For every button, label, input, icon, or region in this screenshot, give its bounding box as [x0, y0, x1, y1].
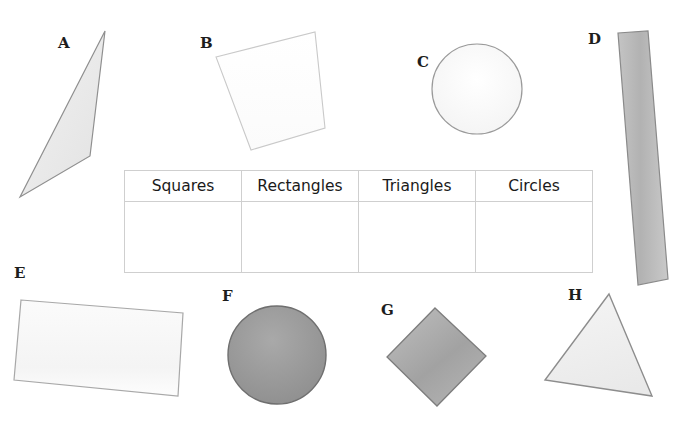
shape-a-triangle [20, 31, 105, 197]
answer-cell-triangles[interactable] [359, 202, 476, 273]
shape-e-rectangle [14, 300, 183, 396]
shape-b-square [216, 32, 325, 150]
shape-label-e: E [14, 266, 25, 281]
shape-c-circle [432, 44, 522, 134]
shape-g-square [387, 308, 486, 406]
worksheet-canvas: A B C D E F G H Squares Rectangles Trian… [0, 0, 694, 421]
shape-label-f: F [222, 289, 233, 304]
shape-label-c: C [417, 55, 429, 70]
column-header-rectangles: Rectangles [242, 171, 359, 202]
table-header-row: Squares Rectangles Triangles Circles [125, 171, 593, 202]
answer-cell-squares[interactable] [125, 202, 242, 273]
answer-cell-circles[interactable] [476, 202, 593, 273]
shape-label-d: D [588, 32, 601, 47]
column-header-squares: Squares [125, 171, 242, 202]
answer-cell-rectangles[interactable] [242, 202, 359, 273]
shape-label-b: B [200, 36, 213, 51]
shape-h-triangle [545, 294, 652, 396]
shape-f-circle [228, 306, 326, 404]
column-header-triangles: Triangles [359, 171, 476, 202]
shape-label-h: H [568, 288, 582, 303]
shape-d-rectangle [618, 31, 668, 285]
shape-sorting-table: Squares Rectangles Triangles Circles [124, 170, 593, 273]
shape-label-g: G [381, 303, 394, 318]
column-header-circles: Circles [476, 171, 593, 202]
table-row [125, 202, 593, 273]
shape-label-a: A [58, 36, 70, 51]
